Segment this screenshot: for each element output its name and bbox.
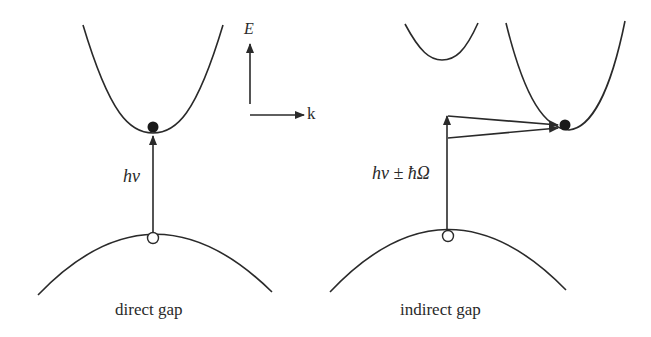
hole-circle bbox=[148, 233, 159, 244]
direct-gap-panel bbox=[38, 25, 272, 295]
indirect-transition-label: hν ± ħΩ bbox=[372, 163, 430, 184]
energy-axis-label: E bbox=[244, 20, 254, 38]
conduction-band-secondary-curve bbox=[405, 23, 478, 60]
axes-indicator bbox=[250, 44, 304, 115]
phonon-arrow-upper bbox=[448, 116, 558, 125]
momentum-axis-label: k bbox=[307, 104, 316, 124]
band-diagram bbox=[0, 0, 651, 337]
direct-gap-caption: direct gap bbox=[115, 300, 183, 320]
conduction-band-main-curve bbox=[506, 21, 625, 130]
electron-dot bbox=[148, 122, 159, 133]
indirect-gap-panel bbox=[330, 21, 625, 292]
hole-circle bbox=[443, 231, 454, 242]
conduction-band-curve bbox=[83, 25, 223, 133]
direct-transition-label: hν bbox=[123, 166, 140, 187]
indirect-gap-caption: indirect gap bbox=[400, 300, 481, 320]
electron-dot bbox=[560, 120, 571, 131]
phonon-arrow-lower bbox=[448, 128, 558, 138]
